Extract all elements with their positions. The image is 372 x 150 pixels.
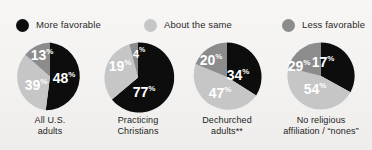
pie-value-more-favorable: 48%: [53, 70, 75, 86]
legend-item-label: More favorable: [36, 20, 101, 30]
pie-group-dechurched-adults: 34% 47% 20% Dechurched adults**: [181, 41, 273, 136]
pie-group-all-us-adults: 48% 39% 13% All U.S. adults: [4, 41, 96, 136]
pie-value-less-favorable: 4%: [133, 45, 145, 61]
pie-chart-no-religious-affiliation[interactable]: 17% 54% 29%: [275, 41, 367, 112]
pie-value-less-favorable: 29%: [288, 58, 310, 74]
pie-group-no-religious-affiliation: 17% 54% 29% No religious affiliation / “…: [275, 41, 367, 136]
filled-circle-icon: [16, 19, 29, 32]
pie-chart-dechurched-adults[interactable]: 34% 47% 20%: [181, 41, 273, 112]
pie-value-about-the-same: 47%: [209, 85, 231, 101]
pie-value-more-favorable: 17%: [312, 54, 334, 70]
legend-item-more-favorable[interactable]: More favorable: [16, 14, 101, 36]
chart-canvas: More favorable About the same Less favor…: [0, 0, 372, 150]
chart-legend: More favorable About the same Less favor…: [0, 14, 372, 36]
pie-caption: All U.S. adults: [4, 115, 96, 136]
pie-chart-all-us-adults[interactable]: 48% 39% 13%: [4, 41, 96, 112]
filled-circle-icon: [144, 19, 157, 32]
pie-caption: No religious affiliation / “nones”: [275, 115, 367, 136]
legend-item-less-favorable[interactable]: Less favorable: [282, 14, 365, 36]
pie-value-about-the-same: 54%: [304, 81, 326, 97]
pie-caption: Dechurched adults**: [181, 115, 273, 136]
legend-item-label: About the same: [164, 20, 232, 30]
pie-caption: Practicing Christians: [92, 115, 184, 136]
legend-item-label: Less favorable: [302, 20, 365, 30]
pie-value-less-favorable: 13%: [31, 47, 53, 63]
pie-chart-practicing-christians[interactable]: 77% 19% 4%: [92, 41, 184, 112]
filled-circle-icon: [282, 19, 295, 32]
legend-item-about-the-same[interactable]: About the same: [144, 14, 232, 36]
pie-value-more-favorable: 77%: [133, 84, 155, 100]
pie-slices: [286, 41, 356, 111]
pie-group-practicing-christians: 77% 19% 4% Practicing Christians: [92, 41, 184, 136]
pie-value-about-the-same: 39%: [25, 77, 47, 93]
pie-value-about-the-same: 19%: [109, 58, 131, 74]
pie-value-less-favorable: 20%: [200, 52, 222, 68]
pie-value-more-favorable: 34%: [227, 67, 249, 83]
